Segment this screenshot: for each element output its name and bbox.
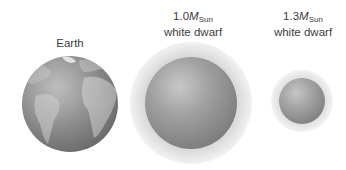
earth-label-text: Earth: [56, 37, 84, 49]
white-dwarf-1-0-label: 1.0MSun white dwarf: [164, 10, 222, 39]
type-label: white dwarf: [164, 26, 222, 39]
earth-globe: [22, 56, 118, 152]
earth-label: Earth: [56, 37, 84, 50]
white-dwarf-1-0-sphere: [145, 57, 237, 149]
mass-subscript: Sun: [309, 15, 323, 24]
mass-label: 1.0MSun: [164, 10, 222, 26]
mass-label: 1.3MSun: [274, 10, 332, 26]
mass-value: 1.0: [173, 10, 189, 22]
mass-subscript: Sun: [199, 15, 213, 24]
mass-symbol: M: [299, 10, 309, 22]
white-dwarf-1-3-label: 1.3MSun white dwarf: [274, 10, 332, 39]
type-label: white dwarf: [274, 26, 332, 39]
white-dwarf-1-3-sphere: [279, 78, 325, 124]
mass-symbol: M: [189, 10, 199, 22]
mass-value: 1.3: [283, 10, 299, 22]
